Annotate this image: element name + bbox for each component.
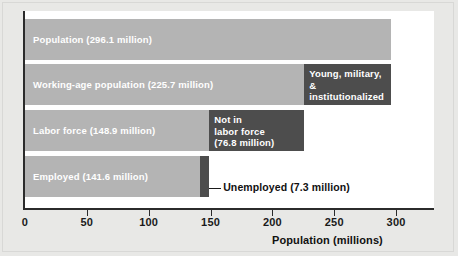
bar-label-employed: Employed (141.6 million) bbox=[33, 171, 148, 183]
bar-segment-population[interactable]: Population (296.1 million) bbox=[25, 19, 391, 60]
bar-label-population: Population (296.1 million) bbox=[33, 34, 152, 46]
x-axis-title: Population (millions) bbox=[272, 234, 383, 246]
bar-label-young-military-institutionalized: Young, military, & institutionalized (70… bbox=[309, 68, 391, 114]
x-axis-tick-label-200: 200 bbox=[263, 216, 282, 228]
x-axis-tick-label-250: 250 bbox=[325, 216, 344, 228]
chart-figure: Population (296.1 million) Working-age p… bbox=[0, 0, 458, 256]
x-axis-tick-label-300: 300 bbox=[387, 216, 406, 228]
bar-segment-not-in-labor-force[interactable]: Not in labor force (76.8 million) bbox=[209, 110, 304, 151]
bar-segment-employed[interactable]: Employed (141.6 million) bbox=[25, 156, 200, 197]
bar-segment-unemployed[interactable] bbox=[200, 156, 209, 197]
x-axis-tick-label-50: 50 bbox=[81, 216, 94, 228]
unemployed-callout-leader-line bbox=[209, 188, 221, 189]
bar-label-not-in-labor-force: Not in labor force (76.8 million) bbox=[214, 114, 274, 149]
x-axis-tick-label-150: 150 bbox=[201, 216, 220, 228]
bar-label-labor-force: Labor force (148.9 million) bbox=[33, 125, 155, 137]
x-axis-line bbox=[23, 208, 434, 210]
bar-segment-working-age-population[interactable]: Working-age population (225.7 million) bbox=[25, 64, 304, 105]
unemployed-callout-label: Unemployed (7.3 million) bbox=[223, 181, 350, 193]
x-axis-tick-label-0: 0 bbox=[22, 216, 28, 228]
bar-segment-young-military-institutionalized[interactable]: Young, military, & institutionalized (70… bbox=[304, 64, 391, 105]
bar-segment-labor-force[interactable]: Labor force (148.9 million) bbox=[25, 110, 209, 151]
x-axis-tick-label-100: 100 bbox=[139, 216, 158, 228]
bar-label-working-age-population: Working-age population (225.7 million) bbox=[33, 79, 213, 91]
